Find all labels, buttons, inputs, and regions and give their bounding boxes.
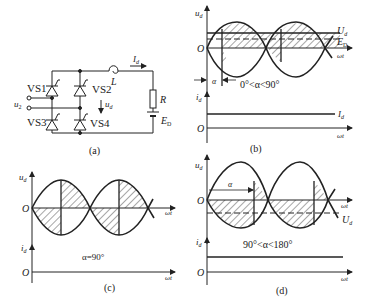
- caption-b: (b): [250, 143, 262, 155]
- c-x-axis-label: ωt: [165, 209, 173, 217]
- d-id-origin-label: O: [197, 267, 204, 278]
- hatch-area-c1: [61, 180, 90, 208]
- hatch-area-d2: [207, 200, 254, 228]
- b-id-level-label: Id: [337, 109, 345, 120]
- panel-d-labels: ud O α ωt Ud id 90°<α<180° O ωt (d): [195, 160, 353, 297]
- emf-label: ED: [160, 115, 172, 127]
- d-id-axis-label: id: [196, 237, 203, 248]
- figure-canvas: VS1 VS2 VS3 VS4 L R ED u2 ud Id (a): [0, 0, 367, 307]
- d-id-x-axis-label: ωt: [341, 275, 349, 283]
- node-top: [79, 70, 82, 73]
- inductor-icon: [109, 66, 118, 74]
- b-id-origin-label: O: [197, 123, 204, 134]
- b-x-axis-label: ωt: [337, 52, 345, 60]
- d-condition-label: 90°<α<180°: [243, 239, 293, 250]
- panel-b-waveforms: [194, 6, 352, 143]
- resistor-icon: [150, 90, 156, 108]
- thyristor-vs4-icon: [74, 114, 88, 130]
- vs4-label: VS4: [90, 117, 110, 129]
- input-voltage-label: u2: [14, 99, 22, 110]
- c-id-origin-label: O: [22, 267, 29, 278]
- current-label: Id: [132, 54, 140, 65]
- output-voltage-label: ud: [105, 99, 114, 110]
- hatch-area-d4: [268, 200, 314, 228]
- panel-c-waveforms: [32, 172, 175, 283]
- hatch-area-b2: [222, 48, 227, 65]
- vs1-label: VS1: [27, 82, 47, 94]
- b-ed-level-label: ED: [336, 36, 348, 48]
- caption-d: (d): [276, 285, 288, 297]
- panel-d-waveforms: [207, 155, 352, 285]
- c-id-x-axis-label: ωt: [165, 274, 173, 282]
- b-id-axis-label: id: [196, 92, 203, 103]
- b-ud-axis-label: ud: [195, 8, 204, 19]
- hatch-area-b4: [281, 33, 340, 48]
- c-condition-label: α=90°: [82, 252, 105, 262]
- thyristor-vs2-icon: [74, 80, 88, 96]
- c-id-axis-label: id: [21, 243, 28, 254]
- inductor-label: L: [110, 76, 117, 87]
- panel-c-labels: ud O ωt id α=90° O ωt (c): [19, 172, 173, 294]
- thyristor-vs3-icon: [46, 114, 60, 130]
- c-ud-axis-label: ud: [19, 172, 28, 183]
- b-origin-label: O: [197, 43, 204, 54]
- d-origin-label: O: [197, 195, 204, 206]
- caption-a: (a): [89, 145, 100, 157]
- c-origin-label: O: [22, 203, 29, 214]
- d-alpha-label: α: [228, 180, 233, 189]
- d-ud-axis-label: ud: [195, 160, 204, 171]
- input-terminal-1: [27, 96, 31, 100]
- hatch-area-c2: [32, 208, 61, 235]
- panel-a-labels: VS1 VS2 VS3 VS4 L R ED u2 ud Id (a): [14, 54, 172, 157]
- b-id-x-axis-label: ωt: [337, 132, 345, 140]
- vs2-label: VS2: [92, 83, 112, 95]
- caption-c: (c): [104, 282, 115, 294]
- node-bottom: [79, 132, 82, 135]
- hatch-area-c4: [90, 208, 119, 235]
- thyristor-vs1-icon: [46, 80, 60, 96]
- d-ud-level-label: Ud: [342, 214, 353, 226]
- vs3-label: VS3: [27, 116, 47, 128]
- b-condition-label: 0°<α<90°: [240, 79, 280, 90]
- d-x-axis-label: ωt: [341, 202, 349, 210]
- b-alpha-label: α: [212, 77, 217, 86]
- hatch-area-c3: [119, 180, 148, 208]
- resistor-label: R: [159, 94, 166, 105]
- input-terminal-2: [27, 106, 31, 110]
- battery-icon: [147, 112, 159, 120]
- hatch-area-d1: [254, 181, 268, 200]
